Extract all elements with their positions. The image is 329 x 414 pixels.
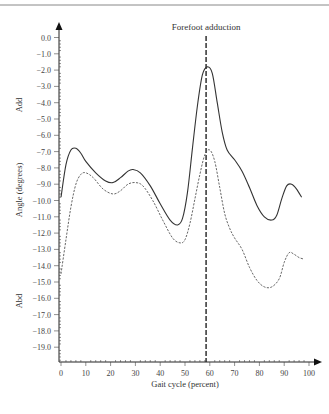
y-tick-label: 0.0	[41, 34, 51, 43]
x-tick-label: 20	[107, 369, 115, 378]
y-tick-label: −17.0	[32, 311, 51, 320]
y-tick-label: −4.0	[36, 99, 51, 108]
data-series	[61, 67, 304, 288]
y-tick-label: −1.0	[36, 50, 51, 59]
x-tick-label: 50	[181, 369, 189, 378]
x-axis-title: Gait cycle (percent)	[151, 379, 219, 389]
x-tick-label: 80	[255, 369, 263, 378]
annotation-label: Forefoot adduction	[172, 22, 241, 32]
y-tick-label: −5.0	[36, 115, 51, 124]
y-axis-abd-label: Abd	[14, 293, 24, 308]
axes: 0.0−1.0−2.0−3.0−4.0−5.0−6.0−7.0−8.0−9.0−…	[32, 22, 322, 378]
x-tick-label: 100	[303, 369, 315, 378]
x-tick-label: 60	[206, 369, 214, 378]
x-tick-label: 0	[59, 369, 63, 378]
x-tick-label: 30	[131, 369, 139, 378]
y-axis-arrow-icon	[56, 22, 63, 30]
y-tick-label: −9.0	[36, 180, 51, 189]
y-axis-title: Angle (degrees)	[14, 163, 24, 218]
y-tick-label: −3.0	[36, 82, 51, 91]
y-tick-label: −16.0	[32, 294, 51, 303]
x-tick-label: 40	[156, 369, 164, 378]
y-tick-label: −19.0	[32, 343, 51, 352]
y-tick-label: −2.0	[36, 66, 51, 75]
y-tick-label: −6.0	[36, 131, 51, 140]
y-tick-label: −14.0	[32, 262, 51, 271]
y-tick-label: −7.0	[36, 148, 51, 157]
y-tick-label: −11.0	[33, 213, 51, 222]
y-tick-label: −10.0	[32, 197, 51, 206]
x-tick-label: 10	[82, 369, 90, 378]
y-tick-label: −13.0	[32, 245, 51, 254]
y-axis-add-label: Add	[14, 97, 24, 112]
x-tick-label: 70	[231, 369, 239, 378]
x-axis-arrow-icon	[314, 359, 322, 366]
series-solid-line	[61, 67, 302, 225]
y-tick-label: −12.0	[32, 229, 51, 238]
y-tick-label: −18.0	[32, 327, 51, 336]
gait-angle-chart: 0.0−1.0−2.0−3.0−4.0−5.0−6.0−7.0−8.0−9.0−…	[0, 0, 329, 414]
x-tick-label: 90	[280, 369, 288, 378]
y-tick-label: −8.0	[36, 164, 51, 173]
y-tick-label: −15.0	[32, 278, 51, 287]
